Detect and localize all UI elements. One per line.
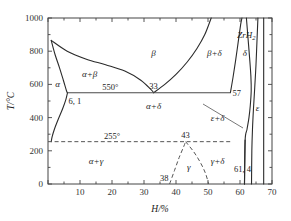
x-tick-label: 10 — [76, 187, 86, 197]
region-label-ε-δ: ε+δ — [211, 113, 226, 123]
y-tick-label: 600 — [30, 79, 44, 89]
label-255-deg: 255° — [104, 131, 120, 141]
boundary-gamma-left — [170, 142, 186, 184]
y-tick-label: 800 — [30, 46, 44, 56]
region-label-γ-δ: γ+δ — [211, 156, 226, 166]
y-tick-label: 400 — [30, 113, 44, 123]
region-label-γ: γ — [187, 162, 191, 172]
label-point-6-1: 6, 1 — [69, 96, 82, 106]
x-tick-label: 50 — [204, 187, 214, 197]
region-label-δ: δ — [243, 48, 248, 58]
label-point-38: 38 — [160, 173, 169, 183]
phase-diagram-figure: 10203040506070 02004006008001000 αα+βββ+… — [0, 0, 291, 221]
region-label-α-γ: α+γ — [89, 156, 104, 166]
region-label-α-β: α+β — [82, 69, 98, 79]
boundary-epsilon-left — [252, 18, 258, 184]
x-tick-label: 40 — [172, 187, 182, 197]
y-tick-label: 200 — [30, 146, 44, 156]
x-tick-label: 30 — [140, 187, 150, 197]
region-label-α-δ: α+δ — [146, 101, 162, 111]
y-tick-label: 0 — [39, 179, 44, 189]
label-550-deg: 550° — [102, 82, 118, 92]
phase-region-labels: αα+βββ+δδεα+δε+δα+γγγ+δZrH2550°255°6, 13… — [55, 30, 260, 183]
region-label-ZrH2: ZrH2 — [237, 30, 256, 41]
boundary-delta-right — [244, 18, 251, 184]
region-label-β-δ: β+δ — [206, 48, 223, 58]
label-point-61-4: 61, 4 — [234, 164, 252, 174]
region-label-α: α — [55, 79, 60, 89]
region-label-β: β — [150, 48, 156, 58]
y-axis-title: T/°C — [6, 91, 16, 110]
x-axis-title: H/% — [150, 204, 169, 214]
y-tick-label: 1000 — [25, 13, 44, 23]
x-tick-label: 70 — [268, 187, 278, 197]
x-tick-label: 20 — [108, 187, 118, 197]
label-point-57: 57 — [232, 88, 241, 98]
x-tick-label: 60 — [236, 187, 246, 197]
label-point-33: 33 — [149, 81, 158, 91]
boundary-delta-left-upper — [230, 18, 242, 93]
boundary-alpha-solvus-lower — [51, 93, 67, 142]
region-label-ε: ε — [256, 103, 260, 113]
phase-diagram-svg: 10203040506070 02004006008001000 αα+βββ+… — [0, 0, 291, 221]
boundary-epsilon-delta-tail — [244, 140, 245, 184]
label-point-43: 43 — [181, 130, 190, 140]
boundary-beta-delta-right — [154, 18, 212, 93]
